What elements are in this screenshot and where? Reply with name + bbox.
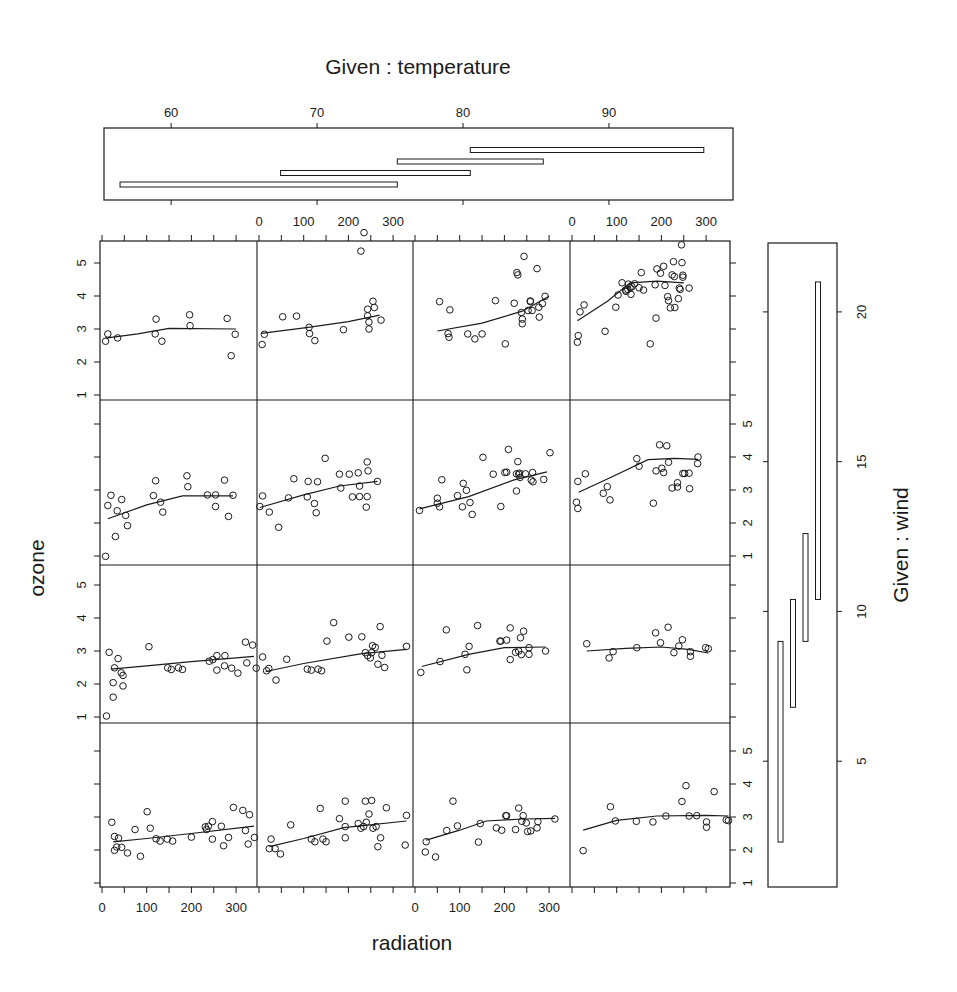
data-point xyxy=(613,304,620,311)
data-point xyxy=(228,665,235,672)
data-point xyxy=(212,492,219,499)
data-point xyxy=(259,341,266,348)
data-point xyxy=(515,272,522,279)
data-point xyxy=(324,638,331,645)
data-point xyxy=(520,628,527,635)
data-point xyxy=(110,679,117,686)
x-tick-label: 200 xyxy=(338,214,360,229)
data-point xyxy=(109,819,116,826)
data-point xyxy=(244,660,251,667)
wind-title: Given : wind xyxy=(889,487,912,603)
data-point xyxy=(159,338,166,345)
data-point xyxy=(261,331,268,338)
data-point xyxy=(225,834,232,841)
data-point xyxy=(146,643,153,650)
data-point xyxy=(377,834,384,841)
data-point xyxy=(580,847,587,854)
data-point xyxy=(112,533,119,540)
data-point xyxy=(660,469,667,476)
y-tick-label: 2 xyxy=(74,680,89,687)
data-point xyxy=(443,627,450,634)
data-point xyxy=(366,811,373,818)
data-point xyxy=(317,805,324,812)
wind-tick-label: 5 xyxy=(854,758,869,765)
data-point xyxy=(672,304,679,311)
panel-r1-c1 xyxy=(109,804,258,859)
data-point xyxy=(657,270,664,277)
data-point xyxy=(293,313,300,320)
y-tick-label: 1 xyxy=(740,879,755,886)
data-point xyxy=(515,805,522,812)
loess-line xyxy=(113,826,254,842)
data-point xyxy=(346,634,353,641)
data-point xyxy=(536,314,543,321)
data-point xyxy=(480,454,487,461)
loess-line xyxy=(426,818,555,840)
data-point xyxy=(378,317,385,324)
data-point xyxy=(277,851,284,858)
data-point xyxy=(214,652,221,659)
data-point xyxy=(225,513,232,520)
data-point xyxy=(511,300,518,307)
panel-r2-c1 xyxy=(103,639,259,720)
y-tick-label: 3 xyxy=(74,647,89,654)
panel-r3-c2 xyxy=(257,455,381,531)
data-point xyxy=(253,665,260,672)
data-point xyxy=(245,841,252,848)
coplot-chart: Given : temperature 60708090 5101520 010… xyxy=(0,0,957,992)
data-point xyxy=(479,331,486,338)
data-point xyxy=(577,309,584,316)
data-point xyxy=(375,843,382,850)
data-point xyxy=(108,492,115,499)
data-point xyxy=(519,320,526,327)
temperature-interval-bar xyxy=(120,182,397,187)
temperature-interval-bar xyxy=(470,148,704,153)
data-point xyxy=(311,500,318,507)
wind-given-panel: 5101520 xyxy=(763,243,869,887)
data-point xyxy=(464,667,471,674)
data-point xyxy=(115,835,122,842)
data-point xyxy=(114,507,121,514)
panel-r2-c4 xyxy=(583,624,711,661)
data-point xyxy=(214,667,221,674)
x-tick-label: 0 xyxy=(411,900,418,915)
loess-line xyxy=(106,328,237,338)
data-point xyxy=(336,471,343,478)
y-tick-label: 1 xyxy=(74,391,89,398)
data-point xyxy=(466,643,473,650)
loess-line xyxy=(269,821,406,847)
data-point xyxy=(573,499,580,506)
data-point xyxy=(249,642,256,649)
data-point xyxy=(184,473,191,480)
data-point xyxy=(375,661,382,668)
x-axis-label: radiation xyxy=(372,931,453,954)
data-point xyxy=(575,332,582,339)
data-point xyxy=(490,471,497,478)
data-point xyxy=(502,341,509,348)
data-point xyxy=(467,499,474,506)
data-point xyxy=(403,643,410,650)
data-point xyxy=(679,798,686,805)
temperature-interval-bar xyxy=(397,159,543,164)
data-point xyxy=(665,459,672,466)
loess-line xyxy=(261,315,380,333)
data-point xyxy=(652,630,659,637)
x-tick-label: 200 xyxy=(494,900,516,915)
data-point xyxy=(686,485,693,492)
data-point xyxy=(209,818,216,825)
panel-r3-c1 xyxy=(102,473,236,560)
y-tick-label: 4 xyxy=(740,453,755,460)
data-point xyxy=(224,315,231,322)
data-point xyxy=(657,639,664,646)
data-point xyxy=(364,493,371,500)
data-point xyxy=(363,504,370,511)
data-point xyxy=(114,335,121,342)
data-point xyxy=(628,291,635,298)
y-tick-label: 3 xyxy=(740,813,755,820)
data-point xyxy=(110,694,117,701)
data-point xyxy=(105,502,112,509)
x-tick-label: 100 xyxy=(449,900,471,915)
data-point xyxy=(221,477,228,484)
data-point xyxy=(124,850,131,857)
data-point xyxy=(342,798,349,805)
